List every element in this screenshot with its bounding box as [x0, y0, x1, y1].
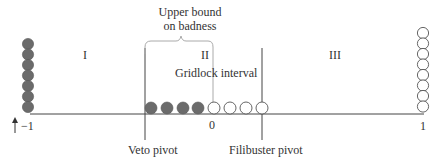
left-filled-stack [22, 38, 33, 112]
axis-filled-circles [145, 102, 204, 114]
tick-label-minus-one: −1 [21, 120, 34, 132]
brace-label-line1: Upper bound [150, 6, 230, 18]
tick-label-one: 1 [420, 120, 426, 132]
right-open-stack [417, 27, 428, 112]
axis-open-circles [208, 102, 268, 114]
tick-label-zero: 0 [209, 119, 215, 131]
region-label-II: II [201, 49, 209, 61]
up-arrow-icon [12, 117, 18, 133]
brace-label-line2: on badness [150, 20, 230, 32]
region-label-I: I [83, 49, 87, 61]
filibuster-pivot-label: Filibuster pivot [229, 144, 303, 156]
gridlock-interval-label: Gridlock interval [175, 67, 257, 79]
veto-pivot-label: Veto pivot [128, 144, 178, 156]
region-label-III: III [329, 49, 341, 61]
